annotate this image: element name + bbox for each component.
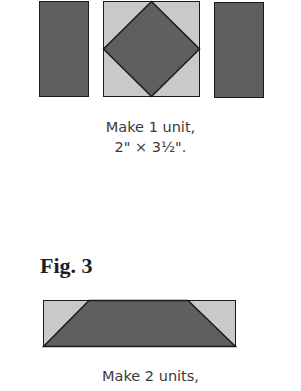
left-dark-rectangle bbox=[40, 2, 89, 97]
right-dark-rectangle bbox=[215, 3, 264, 98]
quilt-diagram bbox=[0, 0, 301, 391]
figure2-caption-line1: Make 1 unit, bbox=[0, 118, 301, 137]
figure3-label: Fig. 3 bbox=[40, 253, 93, 279]
figure2-caption-line2: 2" × 3½". bbox=[0, 138, 301, 157]
figure3-caption-line1: Make 2 units, bbox=[0, 367, 301, 386]
